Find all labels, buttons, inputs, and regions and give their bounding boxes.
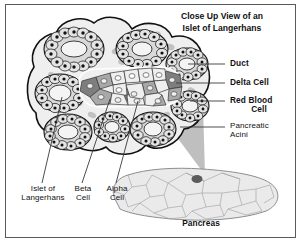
label-beta-cell-line-2: Cell bbox=[68, 194, 98, 203]
title-line-2: Islet of Langerhans bbox=[154, 23, 290, 35]
figure-frame: Close Up View of an Islet of Langerhans … bbox=[5, 4, 296, 238]
duct-lumen bbox=[61, 41, 87, 57]
label-pancreatic-acini: Pancreatic Acini bbox=[230, 122, 269, 140]
figure-title: Close Up View of an Islet of Langerhans bbox=[154, 11, 290, 34]
islet-tissue bbox=[27, 17, 209, 154]
figure-stage: Close Up View of an Islet of Langerhans … bbox=[6, 5, 297, 239]
acinus bbox=[94, 112, 130, 142]
label-red-blood-cell-line-2: Cell bbox=[230, 105, 288, 114]
acinus bbox=[116, 29, 168, 68]
label-pancreatic-acini-line-2: Acini bbox=[230, 131, 269, 140]
label-delta-cell-line-1: Delta Cell bbox=[230, 78, 269, 87]
label-islet-of-langerhans: Islet of Langerhans bbox=[12, 185, 74, 203]
label-pancreas: Pancreas bbox=[158, 219, 244, 228]
label-beta-cell: Beta Cell bbox=[68, 185, 98, 203]
label-red-blood-cell: Red Blood Cell bbox=[230, 96, 288, 115]
acinus bbox=[130, 112, 176, 146]
label-alpha-cell-line-2: Cell bbox=[101, 194, 133, 203]
label-alpha-cell: Alpha Cell bbox=[101, 185, 133, 203]
label-delta-cell: Delta Cell bbox=[230, 78, 269, 87]
label-duct-line-1: Duct bbox=[230, 59, 249, 68]
islet-marker bbox=[192, 175, 203, 183]
label-islet-line-2: Langerhans bbox=[12, 194, 74, 203]
label-duct: Duct bbox=[230, 59, 249, 68]
pancreas-organ bbox=[113, 168, 278, 220]
acinus bbox=[44, 27, 104, 72]
islet-of-langerhans-cluster bbox=[79, 67, 182, 107]
title-line-1: Close Up View of an bbox=[154, 11, 290, 23]
